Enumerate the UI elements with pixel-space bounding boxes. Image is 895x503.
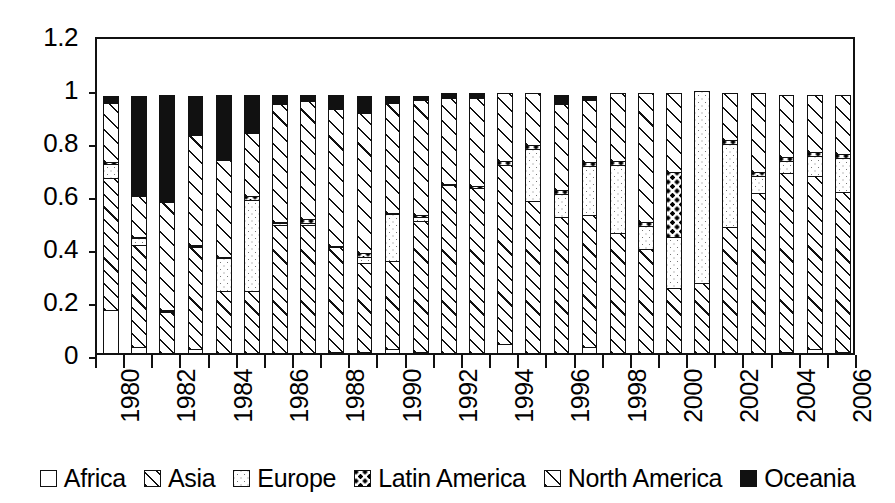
bar-segment[interactable] [722,144,738,229]
bar-segment[interactable] [385,260,401,350]
bar-column[interactable] [469,93,485,353]
bar-segment[interactable] [328,109,344,247]
bar-segment[interactable] [638,93,654,223]
bar-segment[interactable] [666,288,682,354]
bar-column[interactable] [357,96,373,353]
bar-segment[interactable] [666,236,682,289]
bar-segment[interactable] [835,95,851,156]
bar-segment[interactable] [751,175,767,194]
bar-column[interactable] [188,96,204,353]
bar-segment[interactable] [807,95,823,153]
bar-segment[interactable] [722,227,738,354]
bar-segment[interactable] [244,133,260,197]
bar-segment[interactable] [694,91,710,284]
bar-column[interactable] [216,95,232,353]
legend-item[interactable]: Oceania [740,466,855,491]
bar-segment[interactable] [666,93,682,173]
bar-segment[interactable] [357,113,373,253]
bar-segment[interactable] [525,149,541,202]
bar-segment[interactable] [272,224,288,354]
bar-segment[interactable] [582,166,598,216]
bar-segment[interactable] [582,215,598,348]
bar-segment[interactable] [328,95,344,111]
bar-segment[interactable] [216,95,232,161]
bar-segment[interactable] [751,93,767,173]
bar-column[interactable] [554,95,570,353]
bar-column[interactable] [244,95,260,354]
bar-segment[interactable] [244,199,260,292]
bar-segment[interactable] [357,96,373,115]
bar-segment[interactable] [216,258,232,292]
bar-segment[interactable] [779,173,795,353]
legend-item[interactable]: Latin America [354,466,526,491]
bar-segment[interactable] [413,220,429,353]
bar-segment[interactable] [188,96,204,136]
bar-segment[interactable] [497,344,513,355]
bar-column[interactable] [525,93,541,353]
bar-column[interactable] [638,93,654,353]
bar-segment[interactable] [610,165,626,234]
legend-item[interactable]: Asia [144,466,215,491]
bar-segment[interactable] [694,283,710,355]
bar-segment[interactable] [554,194,570,218]
bar-segment[interactable] [357,263,373,353]
bar-segment[interactable] [244,95,260,135]
legend-item[interactable]: North America [544,466,723,491]
bar-segment[interactable] [525,201,541,355]
bar-column[interactable] [807,95,823,353]
bar-segment[interactable] [779,161,795,174]
bar-segment[interactable] [525,93,541,146]
bar-segment[interactable] [835,158,851,192]
bar-column[interactable] [779,95,795,353]
bar-segment[interactable] [216,159,232,257]
legend-item[interactable]: Europe [233,466,336,491]
bar-column[interactable] [103,96,119,353]
bar-column[interactable] [694,91,710,353]
bar-column[interactable] [272,95,288,353]
bar-segment[interactable] [582,96,598,101]
bar-segment[interactable] [328,247,344,353]
bar-segment[interactable] [272,104,288,223]
bar-column[interactable] [300,95,316,353]
bar-column[interactable] [835,95,851,353]
bar-column[interactable] [385,96,401,353]
bar-segment[interactable] [469,93,485,98]
bar-segment[interactable] [610,93,626,162]
legend-item[interactable]: Africa [40,466,126,491]
bar-segment[interactable] [103,309,119,354]
bar-segment[interactable] [131,244,147,347]
bar-segment[interactable] [188,134,204,245]
bar-column[interactable] [722,93,738,353]
bar-segment[interactable] [385,214,401,262]
bar-segment[interactable] [385,102,401,213]
bar-column[interactable] [413,96,429,353]
bar-segment[interactable] [554,95,570,106]
bar-segment[interactable] [722,93,738,141]
bar-segment[interactable] [159,95,175,204]
bar-segment[interactable] [638,248,654,354]
bar-segment[interactable] [441,93,457,98]
bar-segment[interactable] [807,156,823,177]
bar-segment[interactable] [779,95,795,159]
bar-segment[interactable] [441,185,457,355]
bar-segment[interactable] [300,224,316,354]
bar-segment[interactable] [413,96,429,101]
bar-column[interactable] [328,95,344,353]
bar-segment[interactable] [103,96,119,104]
bar-segment[interactable] [103,163,119,179]
bar-segment[interactable] [272,95,288,106]
bar-column[interactable] [610,93,626,353]
bar-column[interactable] [497,93,513,353]
bar-segment[interactable] [103,178,119,311]
bar-segment[interactable] [188,247,204,350]
bar-segment[interactable] [159,312,175,354]
bar-column[interactable] [441,93,457,353]
bar-segment[interactable] [159,202,175,311]
bar-segment[interactable] [807,175,823,350]
bar-segment[interactable] [497,93,513,162]
bar-segment[interactable] [751,193,767,355]
bar-segment[interactable] [497,165,513,345]
bar-segment[interactable] [300,95,316,103]
bar-segment[interactable] [385,96,401,104]
bar-segment[interactable] [244,291,260,355]
